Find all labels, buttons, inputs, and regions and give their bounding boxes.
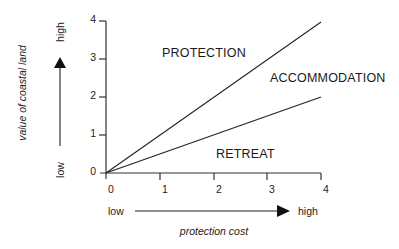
region-label-accommodation: ACCOMMODATION — [270, 71, 386, 85]
y-high-label: high — [54, 22, 66, 42]
region-label-protection: PROTECTION — [162, 46, 246, 60]
y-tick-label: 1 — [90, 127, 96, 139]
y-low-label: low — [54, 162, 66, 178]
y-axis-title: value of coastal land — [16, 44, 28, 141]
x-tick-label: 0 — [108, 183, 114, 195]
y-arrowhead-icon — [54, 57, 66, 68]
x-high-label: high — [298, 205, 318, 217]
y-tick-label: 0 — [90, 165, 96, 177]
protection-boundary-line — [106, 22, 321, 173]
x-low-label: low — [108, 205, 124, 217]
y-tick-label: 3 — [90, 51, 96, 63]
retreat-boundary-line — [106, 97, 321, 173]
x-tick-label: 3 — [269, 183, 275, 195]
x-tick-label: 1 — [162, 183, 168, 195]
x-arrowhead-icon — [277, 205, 290, 217]
x-tick-label: 2 — [216, 183, 222, 195]
diagram-canvas: 4 3 2 1 0 0 1 2 3 4 PROTECTION ACCOMMODA… — [0, 0, 399, 249]
x-tick-label: 4 — [323, 183, 329, 195]
region-label-retreat: RETREAT — [216, 147, 275, 161]
x-axis-title: protection cost — [179, 225, 249, 237]
y-tick-label: 2 — [90, 89, 96, 101]
y-tick-label: 4 — [90, 13, 96, 25]
